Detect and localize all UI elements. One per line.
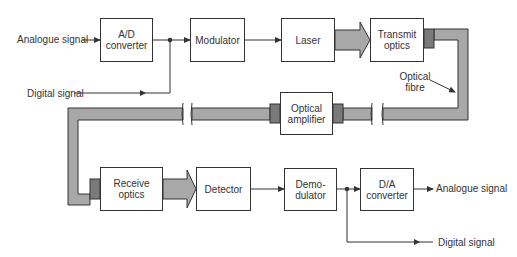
optical-fibre-label: Optical fibre xyxy=(395,71,435,93)
transmit-optics-block: Transmit optics xyxy=(370,18,424,62)
tx-junction-dot xyxy=(168,38,173,43)
analogue-signal-output-label: Analogue signal xyxy=(436,183,507,194)
laser-block: Laser xyxy=(281,18,335,62)
rx-to-detector-arrow xyxy=(163,170,196,208)
analogue-signal-input-label: Analogue signal xyxy=(17,34,88,45)
digital-signal-output-label: Digital signal xyxy=(438,237,495,248)
receive-optics-block: Receive optics xyxy=(100,167,163,211)
da-converter-block: D/A converter xyxy=(360,168,414,211)
amp-left-connector xyxy=(270,104,280,123)
optical-amplifier-block: Optical amplifier xyxy=(280,92,333,135)
digital-out-arrowhead xyxy=(414,239,420,245)
tx-connector xyxy=(424,29,434,48)
ad-converter-block: A/D converter xyxy=(100,18,153,62)
digital-in-arrowhead xyxy=(140,90,146,96)
laser-to-tx-arrow xyxy=(335,22,370,58)
demodulator-block: Demo- dulator xyxy=(284,168,337,211)
rx-connector xyxy=(90,179,100,199)
modulator-block: Modulator xyxy=(190,18,245,62)
digital-signal-input-label: Digital signal xyxy=(27,88,84,99)
detector-block: Detector xyxy=(196,167,251,211)
diagram-canvas: A/D converter Modulator Laser Transmit o… xyxy=(0,0,517,257)
amp-right-connector xyxy=(333,104,343,123)
rx-junction-dot xyxy=(345,187,350,192)
